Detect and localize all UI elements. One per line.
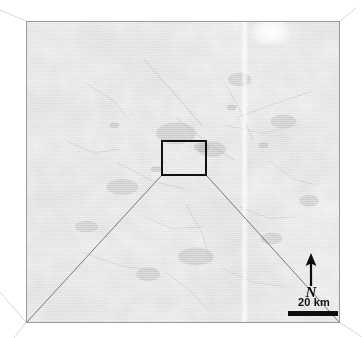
north-arrow-icon: N: [298, 252, 324, 298]
perspective-guide-line: [14, 322, 26, 338]
perspective-guide-line: [339, 322, 362, 337]
scale-bar-label: 20 km: [288, 296, 340, 308]
scale-bar: [288, 311, 338, 316]
region-of-interest-box[interactable]: [161, 140, 207, 176]
perspective-guide-line: [0, 10, 26, 21]
perspective-guide-line: [340, 8, 356, 21]
perspective-guide-line: [0, 292, 26, 322]
map-figure: N 20 km: [0, 0, 362, 338]
